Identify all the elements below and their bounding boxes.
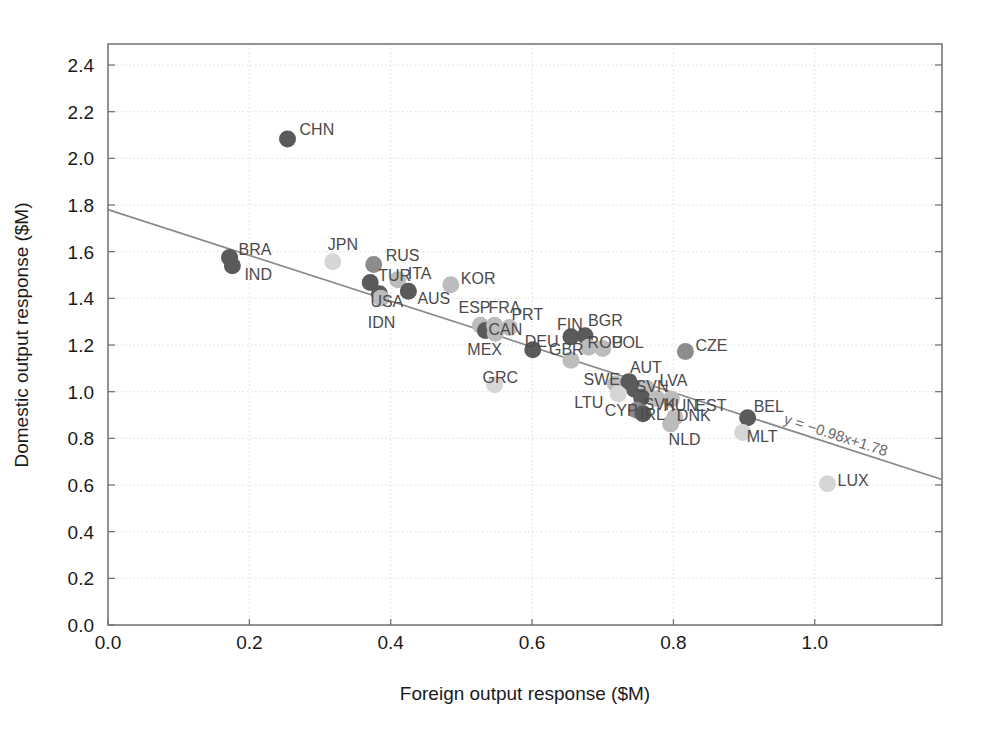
data-point-label: BRA bbox=[239, 241, 272, 258]
data-point-label: BEL bbox=[754, 398, 784, 415]
data-point-label: IDN bbox=[368, 314, 396, 331]
data-point-label: GBR bbox=[549, 341, 584, 358]
data-point-label: FIN bbox=[557, 316, 583, 333]
data-point-label: GRC bbox=[483, 369, 519, 386]
data-point-label: ESP bbox=[458, 299, 490, 316]
y-tick-label: 0.2 bbox=[68, 568, 94, 589]
y-tick-label: 1.6 bbox=[68, 242, 94, 263]
data-point-label: AUT bbox=[630, 359, 662, 376]
data-point-label: CAN bbox=[488, 321, 522, 338]
data-point-label: LTU bbox=[574, 394, 603, 411]
scatter-plot-canvas: CHNBRAINDJPNRUSTURUSAITAAUSKORIDNESPCANM… bbox=[0, 0, 984, 729]
data-point-label: MLT bbox=[747, 428, 778, 445]
y-tick-label: 0.4 bbox=[68, 522, 95, 543]
x-tick-label: 0.4 bbox=[378, 632, 405, 653]
data-point-label: KOR bbox=[461, 270, 496, 287]
y-tick-label: 1.0 bbox=[68, 382, 94, 403]
x-axis-title: Foreign output response ($M) bbox=[400, 683, 650, 704]
x-tick-label: 1.0 bbox=[802, 632, 828, 653]
data-point-label: NLD bbox=[669, 431, 701, 448]
plot-background bbox=[0, 0, 984, 729]
x-tick-label: 0.2 bbox=[236, 632, 262, 653]
y-tick-label: 2.0 bbox=[68, 148, 94, 169]
y-tick-label: 0.6 bbox=[68, 475, 94, 496]
data-point-label: POL bbox=[612, 334, 644, 351]
data-point-label: CHN bbox=[300, 121, 335, 138]
x-tick-label: 0.6 bbox=[519, 632, 545, 653]
data-point-label: IRL bbox=[640, 406, 665, 423]
data-point-label: MEX bbox=[467, 341, 502, 358]
data-point-label: BGR bbox=[588, 312, 623, 329]
data-point-label: TUR bbox=[378, 267, 411, 284]
data-point-label: RUS bbox=[386, 247, 420, 264]
data-point-label: LUX bbox=[838, 472, 869, 489]
y-tick-label: 1.4 bbox=[68, 288, 95, 309]
data-point-marker bbox=[819, 475, 836, 492]
data-point-label: LVA bbox=[660, 372, 688, 389]
data-point-label: JPN bbox=[328, 236, 358, 253]
scatter-plot-figure: CHNBRAINDJPNRUSTURUSAITAAUSKORIDNESPCANM… bbox=[0, 0, 984, 729]
y-tick-label: 0.0 bbox=[68, 615, 94, 636]
data-point-marker bbox=[224, 257, 241, 274]
y-tick-label: 2.4 bbox=[68, 55, 95, 76]
data-point-label: PRT bbox=[511, 306, 543, 323]
x-tick-label: 0.0 bbox=[95, 632, 121, 653]
data-point-label: IND bbox=[244, 266, 272, 283]
x-tick-label: 0.8 bbox=[660, 632, 686, 653]
data-point-label: CZE bbox=[695, 337, 727, 354]
data-point-marker bbox=[677, 343, 694, 360]
data-point-label: SWE bbox=[583, 371, 619, 388]
data-point-label: USA bbox=[370, 293, 403, 310]
y-axis-title: Domestic output response ($M) bbox=[11, 202, 32, 467]
data-point-label: CYP bbox=[605, 402, 638, 419]
data-point-label: DNK bbox=[677, 407, 711, 424]
data-point-label: AUS bbox=[417, 290, 450, 307]
y-tick-label: 0.8 bbox=[68, 428, 94, 449]
y-tick-label: 1.8 bbox=[68, 195, 94, 216]
y-tick-label: 2.2 bbox=[68, 102, 94, 123]
y-tick-label: 1.2 bbox=[68, 335, 94, 356]
data-point-marker bbox=[610, 386, 627, 403]
data-point-label: ITA bbox=[408, 265, 432, 282]
data-point-marker bbox=[324, 253, 341, 270]
data-point-marker bbox=[279, 130, 296, 147]
